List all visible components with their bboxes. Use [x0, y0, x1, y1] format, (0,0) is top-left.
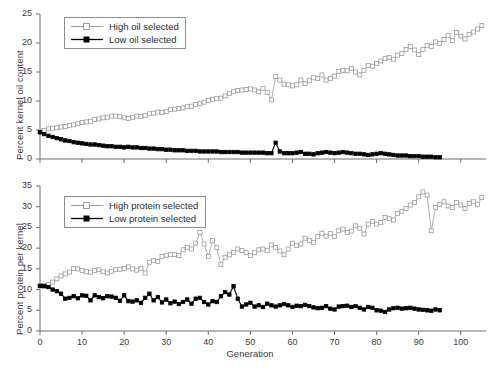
high-oil-legend-label: High oil selected: [109, 21, 179, 32]
protein-x-tick-90: 90: [404, 337, 434, 347]
high-protein-legend-label: High protein selected: [109, 200, 198, 211]
oil-y-tick-0: 0: [2, 153, 32, 163]
oil-y-tick-10: 10: [2, 95, 32, 105]
high-protein-legend-sample: [70, 200, 104, 211]
protein-x-tick-80: 80: [362, 337, 392, 347]
low-protein-legend-label: Low protein selected: [109, 213, 196, 224]
protein-x-tick-0: 0: [25, 337, 55, 347]
low-protein-selected-markers: [38, 284, 441, 314]
low-oil-selected-markers: [38, 131, 441, 159]
protein-x-tick-60: 60: [277, 337, 307, 347]
low-oil-legend-sample: [70, 34, 104, 45]
protein-x-tick-50: 50: [235, 337, 265, 347]
protein-y-tick-15: 15: [2, 263, 32, 273]
oil-y-tick-25: 25: [2, 8, 32, 18]
protein-legend-row-low: Low protein selected: [70, 212, 200, 225]
protein-x-tick-30: 30: [151, 337, 181, 347]
protein-x-axis-label: Generation: [195, 348, 305, 359]
protein-y-tick-5: 5: [2, 304, 32, 314]
protein-x-tick-20: 20: [109, 337, 139, 347]
protein-y-tick-20: 20: [2, 242, 32, 252]
oil-legend-row-low: Low oil selected: [70, 33, 180, 46]
protein-legend-row-high: High protein selected: [70, 199, 200, 212]
oil-y-tick-15: 15: [2, 66, 32, 76]
protein-y-tick-25: 25: [2, 221, 32, 231]
oil-y-tick-20: 20: [2, 37, 32, 47]
protein-y-tick-10: 10: [2, 284, 32, 294]
protein-y-tick-35: 35: [2, 180, 32, 190]
oil-y-tick-5: 5: [2, 124, 32, 134]
oil-legend: High oil selected Low oil selected: [64, 17, 186, 49]
figure-root: Percent kernel oil content 0510152025 Hi…: [0, 0, 496, 370]
protein-y-axis-label: Percent protein per kernel: [14, 223, 25, 335]
oil-legend-row-high: High oil selected: [70, 20, 180, 33]
protein-y-tick-0: 0: [2, 325, 32, 335]
protein-x-tick-10: 10: [67, 337, 97, 347]
protein-y-tick-30: 30: [2, 201, 32, 211]
protein-x-tick-40: 40: [193, 337, 223, 347]
protein-x-tick-70: 70: [320, 337, 350, 347]
high-oil-legend-sample: [70, 21, 104, 32]
protein-x-tick-100: 100: [446, 337, 476, 347]
protein-legend: High protein selected Low protein select…: [64, 196, 206, 228]
low-oil-legend-label: Low oil selected: [109, 34, 177, 45]
low-protein-legend-sample: [70, 213, 104, 224]
